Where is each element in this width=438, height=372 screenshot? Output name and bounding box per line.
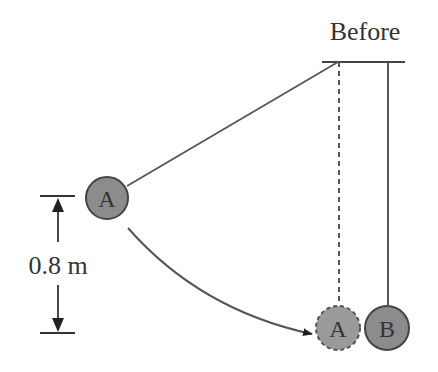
ball-a-end-label: A [329, 316, 347, 342]
string-a-start [127, 62, 338, 186]
ball-b: B [365, 306, 409, 350]
title-label: Before [330, 17, 401, 46]
ball-a-end: A [316, 306, 360, 350]
ball-b-label: B [379, 316, 395, 342]
ball-a-start: A [86, 177, 128, 219]
swing-arrow [128, 228, 312, 334]
height-dimension: 0.8 m [28, 196, 87, 333]
pendulum-diagram: Before A A B 0.8 m [0, 0, 438, 372]
height-label: 0.8 m [28, 251, 87, 280]
ball-a-start-label: A [98, 186, 116, 212]
